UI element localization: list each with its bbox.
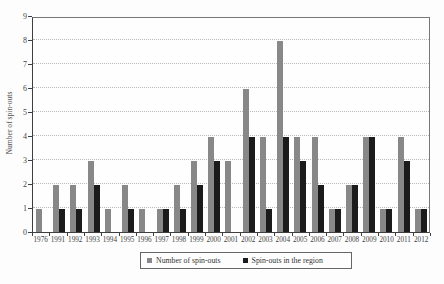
x-tick-label-1996: 1996 [136, 236, 153, 244]
bar-2011-region [404, 161, 410, 232]
legend: Number of spin-outs Spin-outs in the reg… [140, 252, 352, 269]
y-tick-mark-8 [28, 40, 32, 41]
bar-group-1991 [50, 18, 67, 232]
x-tick-label-2009: 2009 [361, 236, 378, 244]
bar-1976-total [36, 209, 42, 232]
bar-group-2001 [222, 18, 239, 232]
bar-2004-region [283, 137, 289, 232]
bar-2010-region [386, 209, 392, 232]
bar-group-2005 [291, 18, 308, 232]
y-tick-label-5: 5 [14, 109, 27, 117]
x-tick-label-2006: 2006 [309, 236, 326, 244]
bar-2007-region [335, 209, 341, 232]
bar-group-2009 [360, 18, 377, 232]
bar-groups [33, 18, 429, 232]
x-axis-tick-labels: 1976199119921993199419951996199719981999… [32, 236, 430, 244]
bar-1993-region [94, 185, 100, 232]
bar-group-2003 [257, 18, 274, 232]
bar-group-1976 [33, 18, 50, 232]
y-tick-label-2: 2 [14, 181, 27, 189]
bar-group-2004 [274, 18, 291, 232]
bar-1992-region [76, 209, 82, 232]
bar-group-2010 [377, 18, 394, 232]
bar-2005-region [300, 161, 306, 232]
legend-swatch-black [243, 258, 248, 263]
x-tick-label-2001: 2001 [222, 236, 239, 244]
x-tick-label-1999: 1999 [188, 236, 205, 244]
bar-group-1995 [119, 18, 136, 232]
bar-1996-total [139, 209, 145, 232]
y-tick-mark-2 [28, 184, 32, 185]
bar-2006-region [318, 185, 324, 232]
y-tick-label-6: 6 [14, 85, 27, 93]
bar-1994-total [105, 209, 111, 232]
y-tick-mark-5 [28, 112, 32, 113]
bar-2000-region [214, 161, 220, 232]
x-tick-label-2004: 2004 [274, 236, 291, 244]
bar-2001-total [225, 161, 231, 232]
bar-group-2006 [309, 18, 326, 232]
x-tick-label-1992: 1992 [67, 236, 84, 244]
y-tick-mark-9 [28, 16, 32, 17]
x-tick-label-2007: 2007 [326, 236, 343, 244]
bar-2009-region [369, 137, 375, 232]
bar-1991-region [59, 209, 65, 232]
bar-group-2012 [412, 18, 429, 232]
x-tick-label-1993: 1993 [84, 236, 101, 244]
x-tick-label-2011: 2011 [395, 236, 412, 244]
y-tick-mark-1 [28, 208, 32, 209]
legend-item-spin-outs-in-region: Spin-outs in the region [243, 256, 323, 265]
y-tick-mark-7 [28, 64, 32, 65]
bar-2008-region [352, 185, 358, 232]
bar-2002-region [249, 137, 255, 232]
bar-2003-region [266, 209, 272, 232]
bar-group-2007 [326, 18, 343, 232]
legend-swatch-gray [147, 258, 152, 263]
x-tick-label-1995: 1995 [118, 236, 135, 244]
bar-group-1999 [188, 18, 205, 232]
bar-group-1997 [154, 18, 171, 232]
x-tick-label-2003: 2003 [257, 236, 274, 244]
legend-label: Number of spin-outs [156, 256, 221, 265]
y-tick-label-1: 1 [14, 205, 27, 213]
x-tick-mark-23 [430, 233, 431, 236]
y-tick-mark-3 [28, 160, 32, 161]
x-tick-label-1991: 1991 [49, 236, 66, 244]
legend-item-number-of-spin-outs: Number of spin-outs [147, 256, 221, 265]
x-tick-label-1976: 1976 [32, 236, 49, 244]
bar-2012-region [421, 209, 427, 232]
x-tick-label-2000: 2000 [205, 236, 222, 244]
y-tick-label-3: 3 [14, 157, 27, 165]
x-tick-label-2008: 2008 [343, 236, 360, 244]
bar-group-2011 [395, 18, 412, 232]
y-axis-tick-labels: 0123456789 [14, 17, 27, 233]
y-tick-label-8: 8 [14, 37, 27, 45]
x-tick-label-2002: 2002 [240, 236, 257, 244]
bar-group-1998 [171, 18, 188, 232]
bar-group-1996 [136, 18, 153, 232]
plot-area [32, 17, 430, 233]
x-tick-label-1994: 1994 [101, 236, 118, 244]
bar-group-2000 [205, 18, 222, 232]
y-tick-label-0: 0 [14, 229, 27, 237]
bar-group-1994 [102, 18, 119, 232]
bar-group-2008 [343, 18, 360, 232]
y-tick-mark-4 [28, 136, 32, 137]
bar-1999-region [197, 185, 203, 232]
y-tick-label-9: 9 [14, 13, 27, 21]
bar-group-1992 [67, 18, 84, 232]
y-tick-label-4: 4 [14, 133, 27, 141]
x-tick-label-2005: 2005 [291, 236, 308, 244]
bar-1997-region [163, 209, 169, 232]
y-tick-mark-6 [28, 88, 32, 89]
bar-group-1993 [85, 18, 102, 232]
legend-label: Spin-outs in the region [252, 256, 323, 265]
x-tick-label-1998: 1998 [170, 236, 187, 244]
x-tick-label-2012: 2012 [413, 236, 430, 244]
x-tick-label-1997: 1997 [153, 236, 170, 244]
bar-1995-region [128, 209, 134, 232]
spin-outs-bar-chart: Number of spin-outs 0123456789 197619911… [0, 0, 444, 284]
bar-group-2002 [240, 18, 257, 232]
x-tick-label-2010: 2010 [378, 236, 395, 244]
y-tick-label-7: 7 [14, 61, 27, 69]
